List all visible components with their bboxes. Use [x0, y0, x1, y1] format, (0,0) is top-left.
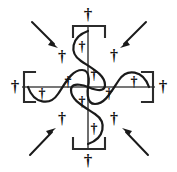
dagger-wave-right-trough: †: [106, 86, 113, 101]
dagger-quadrant-bottom-right: †: [110, 110, 118, 127]
dagger-top-outer: †: [84, 5, 93, 24]
dagger-left-outer: †: [11, 77, 20, 96]
dagger-wave-lower-inner: †: [91, 121, 98, 136]
dagger-right-outer: †: [159, 77, 168, 96]
dagger-wave-right-crest: †: [131, 74, 138, 89]
dagger-wave-left-trough: †: [39, 86, 46, 101]
dagger-wave-left-crest: †: [65, 74, 72, 89]
dagger-pinwheel-figure: † † † † † † † † † † † † † † † †: [0, 0, 177, 172]
dagger-wave-upper-inner: †: [79, 39, 86, 54]
dagger-wave-center-lower: †: [79, 94, 86, 109]
dagger-quadrant-top-left: †: [58, 48, 66, 65]
dagger-quadrant-bottom-left: †: [58, 110, 66, 127]
figure-container: † † † † † † † † † † † † † † † †: [0, 0, 177, 172]
dagger-quadrant-top-right: †: [110, 47, 118, 64]
dagger-wave-center-upper: †: [91, 67, 98, 82]
dagger-bottom-outer: †: [84, 151, 93, 170]
